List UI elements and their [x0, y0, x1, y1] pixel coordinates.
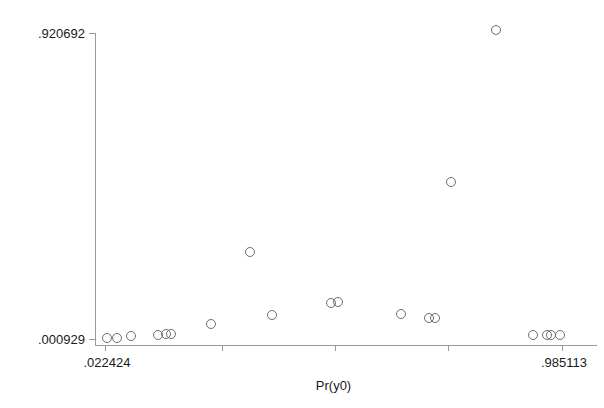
x-axis-tick-label-right: .985113 — [541, 355, 587, 370]
data-point — [207, 320, 216, 329]
data-point — [492, 26, 501, 35]
data-point — [268, 311, 277, 320]
data-point — [103, 334, 112, 343]
axes-group — [89, 33, 597, 351]
y-tick-marks — [89, 33, 95, 339]
data-points-group — [103, 26, 565, 343]
y-axis-tick-label-top: .920692 — [38, 26, 85, 41]
x-axis-tick-label-left: .022424 — [84, 355, 131, 370]
data-point — [447, 178, 456, 187]
y-axis-tick-label-bottom: .000929 — [38, 332, 85, 347]
data-point — [246, 248, 255, 257]
data-point — [127, 332, 136, 341]
data-point — [334, 298, 343, 307]
x-tick-marks — [105, 345, 562, 351]
data-point — [431, 314, 440, 323]
axis-labels-group: .920692 .000929 .022424 .985113 Pr(y0) — [38, 26, 587, 393]
data-point — [113, 334, 122, 343]
data-point — [529, 331, 538, 340]
data-point — [397, 310, 406, 319]
data-point — [556, 331, 565, 340]
x-axis-title: Pr(y0) — [316, 378, 351, 393]
plot-canvas: .920692 .000929 .022424 .985113 Pr(y0) — [0, 0, 604, 408]
scatter-plot-figure: .920692 .000929 .022424 .985113 Pr(y0) — [0, 0, 604, 408]
